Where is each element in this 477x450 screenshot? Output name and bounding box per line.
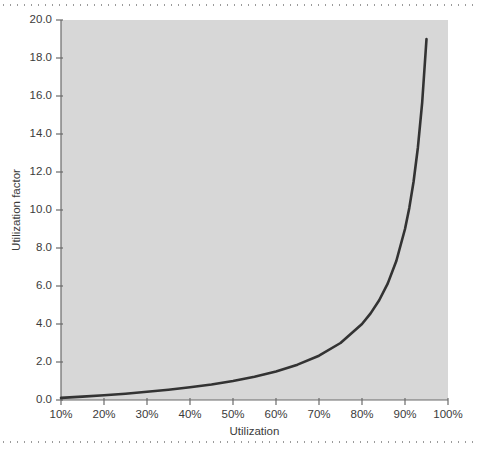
x-axis-tick-label: 80% [350,408,373,420]
x-axis-title: Utilization [230,425,280,437]
x-axis-tick-label: 40% [178,408,201,420]
y-axis-tick-label: 10.0 [30,203,52,215]
y-axis-tick-label: 18.0 [30,51,52,63]
y-axis-tick-label: 8.0 [36,241,52,253]
x-axis-tick-label: 30% [135,408,158,420]
x-axis-tick-label: 100% [433,408,462,420]
y-axis-tick-label: 14.0 [30,127,52,139]
x-axis-tick-label: 50% [221,408,244,420]
utilization-factor-line-chart: 0.02.04.06.08.010.012.014.016.018.020.0 … [0,0,477,450]
y-axis-title: Utilization factor [10,169,22,251]
x-axis-tick-label: 70% [307,408,330,420]
y-axis-tick-label: 2.0 [36,355,52,367]
plot-area-background [61,20,448,400]
y-axis-tick-label: 20.0 [30,13,52,25]
y-axis-tick-label: 16.0 [30,89,52,101]
x-axis-tick-label: 20% [92,408,115,420]
chart-figure: 0.02.04.06.08.010.012.014.016.018.020.0 … [0,0,477,450]
y-axis-tick-labels: 0.02.04.06.08.010.012.014.016.018.020.0 [30,13,52,405]
y-axis-tick-label: 4.0 [36,317,52,329]
y-axis-tick-label: 12.0 [30,165,52,177]
y-axis-tick-label: 6.0 [36,279,52,291]
x-axis-tick-label: 10% [49,408,72,420]
y-axis-tick-label: 0.0 [36,393,52,405]
x-axis-tick-label: 60% [264,408,287,420]
x-axis-tick-labels: 10%20%30%40%50%60%70%80%90%100% [49,408,462,420]
x-axis-tick-label: 90% [393,408,416,420]
